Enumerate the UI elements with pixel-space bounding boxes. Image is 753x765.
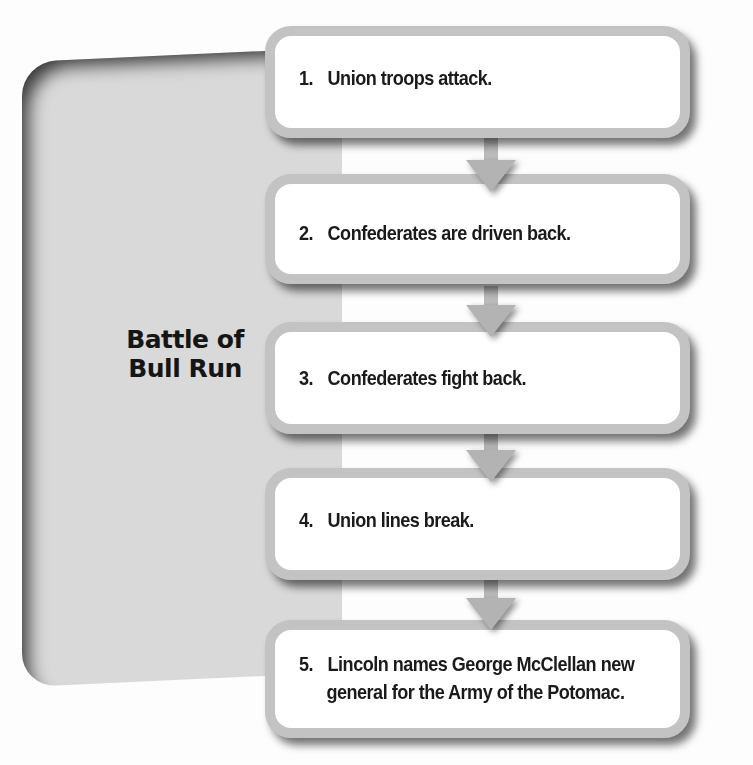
arrow-down-icon — [466, 305, 516, 337]
step-5: 5. Lincoln names George McClellan new ge… — [265, 620, 690, 738]
step-label: Union lines break. — [328, 508, 474, 531]
step-label: Confederates are driven back. — [328, 221, 571, 244]
step-3: 3. Confederates fight back. — [265, 322, 690, 434]
step-1: 1. Union troops attack. — [265, 26, 690, 138]
topic-title: Battle of Bull Run — [100, 325, 270, 383]
step-label: Confederates fight back. — [328, 366, 526, 389]
step-label-line2: general for the Army of the Potomac. — [327, 680, 625, 703]
step-number: 2. — [299, 219, 323, 247]
step-label: Union troops attack. — [328, 66, 492, 89]
topic-title-text: Battle of Bull Run — [100, 325, 270, 383]
arrow-down-icon — [466, 160, 516, 192]
step-number: 1. — [299, 64, 323, 92]
arrow-down-icon — [466, 450, 516, 482]
step-number: 3. — [299, 364, 323, 392]
arrow-down-icon — [466, 598, 516, 630]
step-4: 4. Union lines break. — [265, 468, 690, 580]
step-number: 4. — [299, 506, 323, 534]
step-number: 5. — [299, 650, 323, 678]
step-label: Lincoln names George McClellan new — [328, 652, 635, 675]
